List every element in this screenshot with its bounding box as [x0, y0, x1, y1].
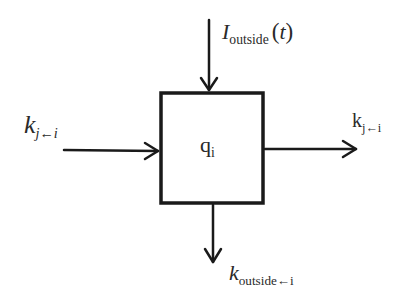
outside-input-arrow	[201, 20, 217, 90]
outside-input-paren-close: )	[286, 18, 294, 44]
right-outflow-arrow	[265, 141, 356, 157]
compartment-label-main: q	[200, 132, 211, 157]
outside-outflow-arrow	[205, 205, 221, 262]
left-inflow-label-sub: j←i	[36, 125, 58, 141]
left-inflow-arrow	[64, 143, 158, 159]
outside-outflow-label-sub: outside←i	[239, 273, 294, 288]
right-outflow-label-sub: j←i	[362, 121, 381, 135]
outside-input-label: Ioutside(t)	[222, 20, 293, 43]
right-outflow-label: kj←i	[352, 110, 381, 130]
outside-outflow-label-main: k	[229, 260, 239, 285]
outside-input-label-sub: outside	[229, 32, 268, 47]
left-inflow-label-main: k	[24, 110, 36, 139]
left-inflow-label: kj←i	[24, 112, 58, 138]
compartment-label-sub: i	[211, 145, 215, 160]
outside-outflow-label: koutside←i	[229, 262, 294, 284]
right-outflow-label-main: k	[352, 109, 362, 131]
compartment-label: qi	[200, 134, 215, 156]
